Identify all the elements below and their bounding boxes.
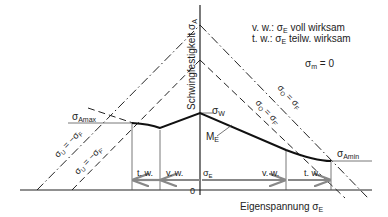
- label-sigma-w: σW: [212, 105, 225, 117]
- condition-sigma-m: σm = 0: [305, 58, 334, 70]
- legend-tw: t. w.: σE teilw. wirksam: [252, 33, 351, 45]
- diagram-canvas: v. w.: σE voll wirksam t. w.: σE teilw. …: [0, 0, 388, 217]
- label-sigma-u-eq-minus-sigma-f: σU = −σF: [52, 127, 84, 160]
- line-sigma-o-eq-sigma-f: [200, 25, 368, 198]
- label-right-vw: v. w.: [262, 168, 279, 178]
- y-axis-label: Schwingfestigkeit σA: [186, 19, 198, 110]
- origin-label: 0: [190, 186, 195, 196]
- x-axis-label: Eigenspannung σE: [240, 201, 323, 213]
- label-m-e: ME: [206, 131, 219, 143]
- curve-m-e: [132, 113, 331, 161]
- label-right-tw: t. w.: [304, 168, 320, 178]
- line-sigma-u-eq-minus-sigma-f: [37, 25, 200, 190]
- label-left-tw: t. w.: [137, 168, 153, 178]
- label-sigma-e: σE: [203, 168, 213, 179]
- label-sigma-o-eq-sigma-f: σO = σF: [275, 82, 304, 111]
- label-left-vw: v. w.: [166, 168, 183, 178]
- label-sigma-amax: σAmax: [72, 111, 97, 123]
- label-sigma-amin: σAmin: [337, 148, 359, 160]
- label-sigma-o-eq-sigma-f-prime: σO = σF': [253, 97, 282, 127]
- m-e-pointer: [217, 125, 232, 136]
